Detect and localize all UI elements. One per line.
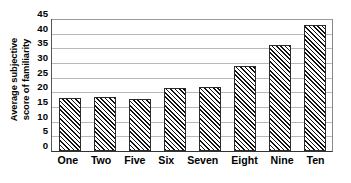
plot-area <box>51 19 333 152</box>
y-axis-tick-label: 20 <box>37 83 48 93</box>
x-axis-tick-label: Ten <box>306 154 324 166</box>
x-axis-tick-label: Six <box>158 154 174 166</box>
bar-chart: Average subjective score of familiarity … <box>0 0 351 183</box>
bar <box>199 87 221 151</box>
y-axis-tick-label: 30 <box>37 53 48 63</box>
x-axis-tick-label: Two <box>91 154 111 166</box>
y-axis-tick-label: 45 <box>37 9 48 19</box>
bar <box>234 66 256 151</box>
x-axis-tick-label: Five <box>124 154 145 166</box>
x-axis-tick-label: Nine <box>271 154 294 166</box>
bar <box>269 45 291 151</box>
x-axis-tick-label: Seven <box>187 154 218 166</box>
y-axis-tick-label: 40 <box>37 24 48 34</box>
bar <box>59 98 81 151</box>
y-axis-title-line-1: Average subjective <box>9 37 21 120</box>
y-axis-tick-labels: 051015202530354045 <box>28 14 48 151</box>
bar <box>164 88 186 151</box>
x-axis-tick-label: Eight <box>231 154 257 166</box>
y-axis-tick-label: 15 <box>37 97 48 107</box>
x-axis-tick-labels: OneTwoFiveSixSevenEightNineTen <box>51 154 331 174</box>
bar <box>94 97 116 151</box>
bar <box>304 25 326 151</box>
y-axis-tick-label: 5 <box>43 127 48 137</box>
y-axis-tick-label: 25 <box>37 68 48 78</box>
x-axis-tick-label: One <box>57 154 78 166</box>
y-axis-tick-label: 0 <box>43 141 48 151</box>
bars-container <box>52 19 332 151</box>
y-axis-tick-label: 10 <box>37 112 48 122</box>
y-axis-tick-label: 35 <box>37 39 48 49</box>
bar <box>129 99 151 151</box>
